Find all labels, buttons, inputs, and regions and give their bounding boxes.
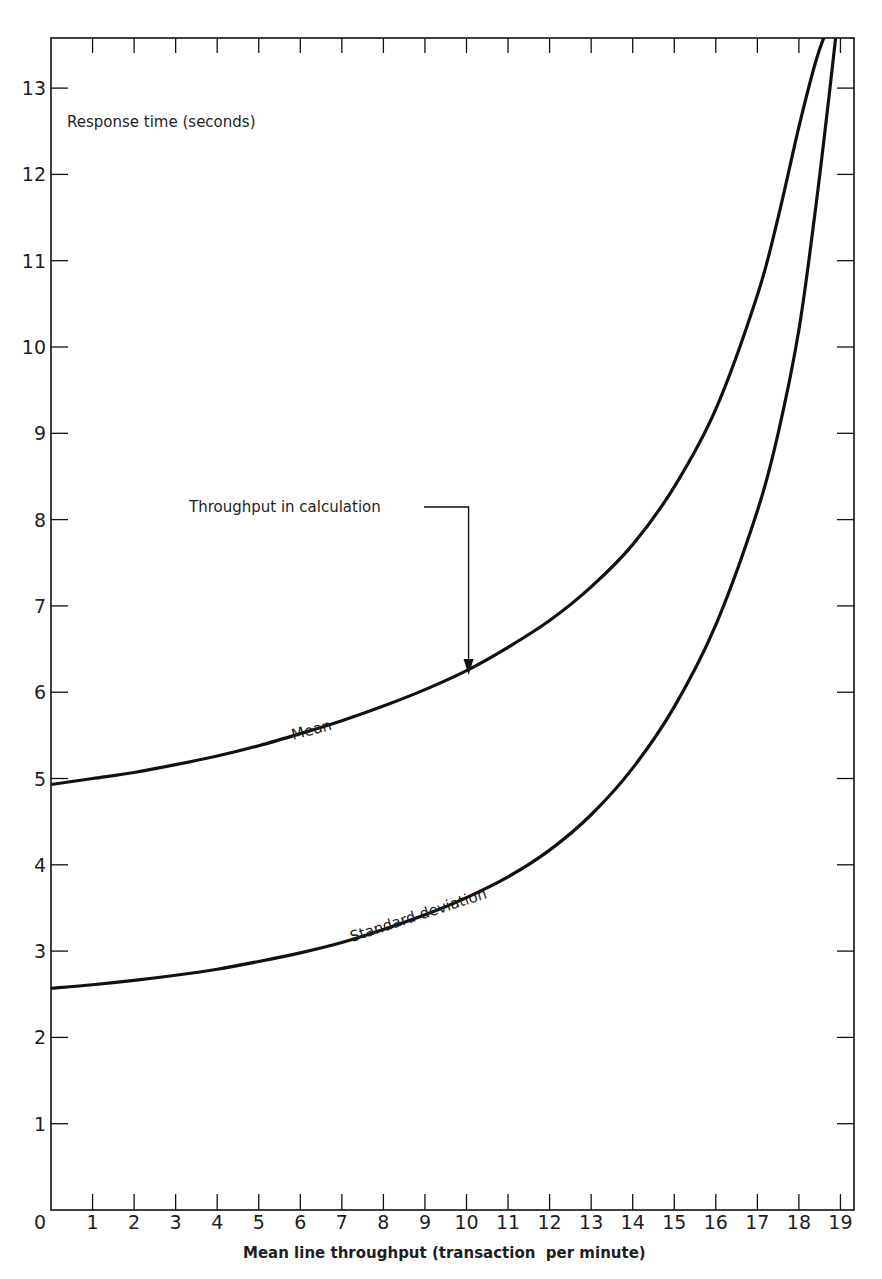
x-tick-label: 4 [211,1211,223,1233]
x-tick-label: 3 [170,1211,182,1233]
x-tick-label: 13 [579,1211,603,1233]
y-tick-label: 2 [34,1026,46,1048]
arrow-line [424,507,469,663]
x-tick-label: 7 [336,1211,348,1233]
x-tick-label: 9 [419,1211,431,1233]
x-tick-label: 0 [34,1211,46,1233]
annotation-throughput-label: Throughput in calculation [188,498,381,516]
std-curve-label: Standard deviation [348,885,489,946]
y-tick-label: 12 [22,163,46,185]
y-axis-ticks: 12345678910111213 [22,77,854,1135]
y-tick-label: 6 [34,681,46,703]
x-tick-label: 2 [128,1211,140,1233]
x-tick-label: 11 [496,1211,520,1233]
mean-curve-label: Mean [289,716,333,744]
x-axis-ticks: 012345678910111213141516171819 [34,38,853,1233]
std-deviation-curve [51,32,836,988]
y-tick-label: 7 [34,595,46,617]
y-axis-title: Response time (seconds) [67,113,255,131]
y-tick-label: 3 [34,940,46,962]
curves [51,32,836,988]
x-tick-label: 5 [253,1211,265,1233]
plot-frame [51,38,854,1210]
mean-curve [51,32,826,785]
x-tick-label: 1 [87,1211,99,1233]
y-tick-label: 10 [22,336,46,358]
y-tick-label: 13 [22,77,46,99]
x-tick-label: 17 [745,1211,769,1233]
x-tick-label: 18 [787,1211,811,1233]
plot-border [51,38,854,1210]
x-tick-label: 19 [828,1211,852,1233]
y-tick-label: 5 [34,768,46,790]
annotation-arrow-icon [424,507,474,675]
y-tick-label: 11 [22,250,46,272]
y-tick-label: 9 [34,422,46,444]
x-tick-label: 14 [621,1211,645,1233]
x-axis-title: Mean line throughput (transaction per mi… [243,1244,646,1262]
y-tick-label: 4 [34,854,46,876]
x-tick-label: 6 [294,1211,306,1233]
x-tick-label: 16 [704,1211,728,1233]
y-tick-label: 8 [34,509,46,531]
x-tick-label: 12 [538,1211,562,1233]
x-tick-label: 10 [454,1211,478,1233]
response-time-chart: 012345678910111213141516171819 123456789… [0,0,882,1279]
x-tick-label: 8 [377,1211,389,1233]
x-tick-label: 15 [662,1211,686,1233]
y-tick-label: 1 [34,1113,46,1135]
